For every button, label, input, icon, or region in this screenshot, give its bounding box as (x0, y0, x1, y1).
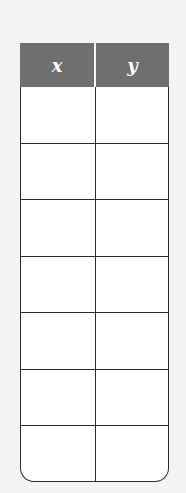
table-row (21, 200, 168, 257)
cell-x[interactable] (21, 200, 96, 256)
cell-x[interactable] (21, 257, 96, 313)
table-row (21, 370, 168, 427)
table-row (21, 257, 168, 314)
table-row (21, 144, 168, 201)
header-x: x (20, 43, 94, 87)
cell-y[interactable] (96, 87, 168, 143)
cell-y[interactable] (96, 370, 168, 426)
table-body (20, 87, 169, 482)
table-row (21, 426, 168, 482)
cell-x[interactable] (21, 313, 96, 369)
cell-x[interactable] (21, 144, 96, 200)
cell-y[interactable] (96, 200, 168, 256)
cell-y[interactable] (96, 426, 168, 482)
cell-x[interactable] (21, 426, 96, 482)
cell-x[interactable] (21, 370, 96, 426)
header-y: y (96, 43, 169, 87)
table-row (21, 313, 168, 370)
table-row (21, 87, 168, 144)
cell-x[interactable] (21, 87, 96, 143)
table-header: x y (20, 43, 169, 87)
xy-table: x y (20, 43, 169, 482)
cell-y[interactable] (96, 313, 168, 369)
cell-y[interactable] (96, 144, 168, 200)
cell-y[interactable] (96, 257, 168, 313)
